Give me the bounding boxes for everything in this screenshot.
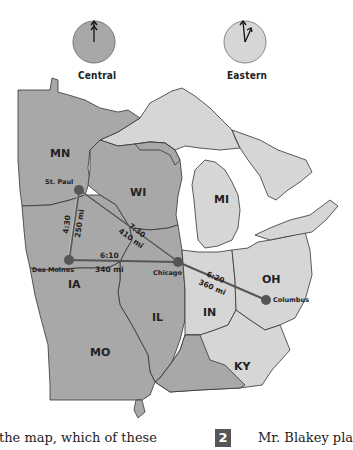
city-dot-columbus xyxy=(261,295,271,305)
city-dot-chicago xyxy=(173,257,183,267)
state-label-oh: OH xyxy=(262,273,281,286)
time-zone-map: MN WI MI IA IL IN OH MO KY St. Paul Des … xyxy=(0,0,353,430)
city-label-des-moines: Des Moines xyxy=(32,266,74,274)
route-distance-desmoines-chicago: 340 mi xyxy=(95,265,124,274)
city-label-st-paul: St. Paul xyxy=(45,178,73,186)
city-dot-st-paul xyxy=(74,185,84,195)
route-time-desmoines-chicago: 6:10 xyxy=(100,251,119,260)
state-label-wi: WI xyxy=(130,186,146,199)
question-2-text-fragment: Mr. Blakey pla xyxy=(258,430,353,445)
state-label-ky: KY xyxy=(234,360,252,373)
question-number-badge: 2 xyxy=(215,429,231,447)
city-label-chicago: Chicago xyxy=(153,269,183,277)
city-label-columbus: Columbus xyxy=(273,296,309,304)
city-dot-des-moines xyxy=(64,255,74,265)
state-in xyxy=(182,250,236,335)
state-label-ia: IA xyxy=(68,278,81,291)
region-mo-bootheel xyxy=(134,400,145,418)
question-1-text-fragment: the map, which of these xyxy=(0,430,157,445)
state-label-in: IN xyxy=(203,306,216,319)
state-label-mo: MO xyxy=(90,346,110,359)
state-label-mn: MN xyxy=(50,147,70,160)
region-canada xyxy=(232,130,312,200)
region-lake-erie-shore xyxy=(255,200,338,240)
state-label-il: IL xyxy=(152,311,163,324)
state-label-mi: MI xyxy=(214,193,229,206)
